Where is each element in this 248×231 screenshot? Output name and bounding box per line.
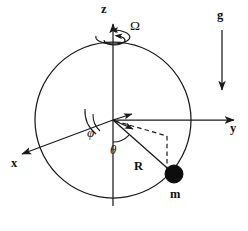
physics-diagram-canvas: z Ω g y x φ θ R m [0, 0, 248, 231]
radius-line [113, 120, 174, 174]
angular-velocity-label: Ω [130, 19, 140, 33]
theta-angle-arc [113, 135, 129, 142]
azimuthal-angle-label: φ [87, 126, 94, 139]
x-axis-label: x [11, 157, 17, 170]
polar-angle-label: θ [110, 143, 116, 156]
y-axis-label: y [230, 122, 236, 135]
diagram-svg [0, 0, 248, 231]
point-mass-dot [165, 165, 183, 183]
z-axis-label: z [101, 3, 107, 16]
gravity-label: g [217, 9, 223, 22]
phi-direction-arrow [113, 120, 133, 129]
theta-direction-arrow [113, 114, 132, 120]
radius-label: R [134, 160, 143, 173]
mass-label: m [170, 188, 180, 201]
